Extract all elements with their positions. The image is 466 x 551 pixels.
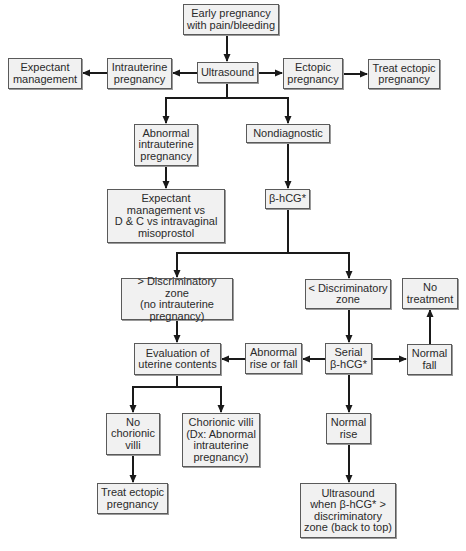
node-no-treatment: No treatment [402,278,458,309]
node-evaluation-uterine-contents: Evaluation of uterine contents [134,343,221,375]
node-normal-rise: Normal rise [326,413,371,444]
node-ectopic-pregnancy: Ectopic pregnancy [283,58,343,89]
node-below-discriminatory-zone: < Discriminatory zone [305,279,391,309]
node-early-pregnancy: Early pregnancy with pain/bleeding [183,4,279,35]
node-expectant-management: Expectant management [8,58,82,89]
node-normal-fall: Normal fall [407,344,452,375]
node-treat-ectopic-top: Treat ectopic pregnancy [368,59,440,89]
node-treat-ectopic-bottom: Treat ectopic pregnancy [97,483,168,514]
node-above-discriminatory-zone: > Discriminatory zone (no intrauterine p… [121,278,233,320]
node-nondiagnostic: Nondiagnostic [246,124,330,143]
node-ultrasound-when-bhcg: Ultrasound when β-hCG* > discriminatory … [300,483,396,538]
node-abnormal-intrauterine: Abnormal intrauterine pregnancy [134,124,198,166]
node-management-options: Expectant management vs D & C vs intrava… [107,189,225,243]
node-ultrasound: Ultrasound [197,62,258,83]
node-chorionic-villi: Chorionic villi (Dx: Abnormal intrauteri… [182,413,260,467]
node-intrauterine-pregnancy: Intrauterine pregnancy [107,58,172,89]
node-bhcg: β-hCG* [265,189,310,209]
node-serial-bhcg: Serial β-hCG* [325,343,372,374]
node-no-chorionic-villi: No chorionic villi [106,413,160,455]
node-abnormal-rise-or-fall: Abnormal rise or fall [245,343,302,374]
flowchart-canvas: Early pregnancy with pain/bleeding Ultra… [0,0,466,551]
